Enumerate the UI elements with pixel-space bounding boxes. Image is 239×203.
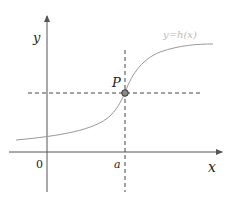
curve-h xyxy=(16,44,213,140)
point-p-marker xyxy=(122,90,129,97)
x-axis-label: x xyxy=(208,159,216,175)
function-graph: y x 0 a P y=h(x) xyxy=(0,0,239,203)
point-p-label: P xyxy=(111,75,121,90)
y-axis-label: y xyxy=(32,30,41,45)
origin-label: 0 xyxy=(36,158,43,171)
curve-label: y=h(x) xyxy=(162,29,197,40)
a-tick-label: a xyxy=(114,158,121,171)
